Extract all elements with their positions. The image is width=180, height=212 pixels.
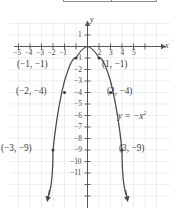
y-tick-neg2: −2 [74,65,82,74]
x-tick-2: 2 [98,48,102,57]
figure-canvas: −5 −4 −3 −2 −1 2 3 4 5 1 −1 −2 −3 −4 −5 … [0,0,180,212]
point-label-pos1: (1, −1) [102,59,127,69]
y-tick-neg9: −9 [74,145,82,154]
x-tick-5: 5 [132,48,136,57]
x-axis-label: x [165,41,169,50]
y-tick-neg1: −1 [74,53,82,62]
x-tick-4: 4 [121,48,125,57]
y-tick-1: 1 [78,30,82,39]
x-tick-neg3: −3 [36,48,44,57]
point-marker [63,91,66,94]
y-tick-neg8: −8 [74,134,82,143]
point-marker [52,149,55,152]
coordinate-plot: −5 −4 −3 −2 −1 2 3 4 5 1 −1 −2 −3 −4 −5 … [0,12,180,212]
point-label-pos3: (3, −9) [119,143,144,153]
point-label-neg1: (−1, −1) [17,59,48,69]
table-divider [111,0,112,1]
x-tick-3: 3 [109,48,113,57]
y-axis-label: y [90,15,94,24]
point-label-pos2: (2, −4) [107,86,132,96]
x-tick-neg5: −5 [13,48,21,57]
y-tick-neg5: −5 [74,99,82,108]
x-tick-neg2: −2 [48,48,56,57]
x-tick-neg1: −1 [59,48,67,57]
y-tick-neg6: −6 [74,111,82,120]
point-label-neg3: (−3, −9) [1,143,32,153]
y-tick-neg3: −3 [74,76,82,85]
equation-base: y = −x [118,111,143,121]
point-label-neg2: (−2, −4) [16,86,47,96]
equation-exponent: 2 [143,110,146,116]
y-tick-neg4: −4 [74,88,82,97]
y-tick-neg7: −7 [74,122,82,131]
x-tick-neg4: −4 [25,48,33,57]
equation-label: y = −x2 [118,110,146,121]
y-tick-neg11: −11 [70,168,81,177]
table-fragment [63,0,157,2]
y-tick-neg10: −10 [70,157,82,166]
